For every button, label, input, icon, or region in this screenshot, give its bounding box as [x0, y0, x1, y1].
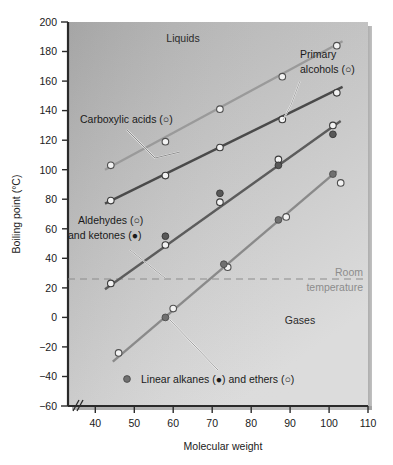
data-point [108, 162, 115, 169]
series-label-primary-alcohols-line2: alcohols (○) [300, 63, 355, 75]
data-point [162, 138, 169, 145]
x-tick-label: 60 [167, 417, 179, 429]
region-label-gases: Gases [285, 314, 315, 326]
data-point [220, 261, 227, 268]
y-tick-label: 200 [39, 16, 57, 28]
y-tick-label: 20 [45, 282, 57, 294]
y-tick-label: 120 [39, 134, 57, 146]
y-tick-label: 160 [39, 75, 57, 87]
room-temperature-label-line2: temperature [306, 281, 363, 293]
x-tick-label: 80 [245, 417, 257, 429]
y-tick-label: 80 [45, 193, 57, 205]
series-label-primary-alcohols-line1: Primary [300, 48, 337, 60]
y-tick-label: 100 [39, 164, 57, 176]
data-point [217, 190, 224, 197]
data-point [330, 131, 337, 138]
data-point [337, 180, 344, 187]
data-point [279, 73, 286, 80]
data-point [217, 106, 224, 113]
data-point [283, 214, 290, 221]
x-tick-label: 50 [128, 417, 140, 429]
x-axis-tick-labels: 40 50 60 70 80 90 100 110 [89, 417, 376, 429]
data-point [217, 199, 224, 206]
y-tick-label: 60 [45, 223, 57, 235]
y-tick-label: −40 [39, 370, 57, 382]
y-tick-label: 140 [39, 104, 57, 116]
data-point [108, 280, 115, 287]
x-tick-label: 70 [206, 417, 218, 429]
x-tick-label: 40 [89, 417, 101, 429]
y-tick-label: −20 [39, 341, 57, 353]
data-point [115, 350, 122, 357]
data-point [162, 172, 169, 179]
y-axis: 200 180 160 140 120 100 80 60 40 20 0 −2… [10, 16, 68, 412]
series-label-aldehydes-line2: and ketones (●) [68, 229, 141, 241]
y-tick-label: 40 [45, 252, 57, 264]
y-tick-label: 0 [51, 311, 57, 323]
series-label-linear-alkanes-and-ethers: Linear alkanes (●) and ethers (○) [141, 373, 294, 385]
data-point [330, 122, 337, 129]
data-point [334, 90, 341, 97]
legend-swatch-linear-alkanes [124, 376, 131, 383]
y-tick-label: −60 [39, 400, 57, 412]
data-point [162, 242, 169, 249]
x-tick-label: 110 [360, 417, 377, 429]
y-axis-tick-labels: 200 180 160 140 120 100 80 60 40 20 0 −2… [39, 16, 57, 412]
data-point [275, 162, 282, 169]
data-point [162, 314, 169, 321]
series-label-aldehydes-line1: Aldehydes (○) [78, 214, 143, 226]
data-point [108, 197, 115, 204]
data-point [162, 233, 169, 240]
data-point [275, 217, 282, 224]
x-tick-label: 90 [284, 417, 296, 429]
data-point [170, 305, 177, 312]
y-axis-title: Boiling point (°C) [10, 175, 22, 254]
chart-svg: 200 180 160 140 120 100 80 60 40 20 0 −2… [0, 0, 393, 465]
data-point [330, 171, 337, 178]
series-label-carboxylic-acids: Carboxylic acids (○) [80, 113, 173, 125]
boiling-point-vs-molecular-weight-chart: 200 180 160 140 120 100 80 60 40 20 0 −2… [0, 0, 393, 465]
y-tick-label: 180 [39, 45, 57, 57]
x-tick-label: 100 [320, 417, 338, 429]
room-temperature-label-line1: Room [335, 266, 363, 278]
data-point [217, 144, 224, 151]
region-label-liquids: Liquids [166, 32, 199, 44]
x-axis-title: Molecular weight [184, 440, 263, 452]
